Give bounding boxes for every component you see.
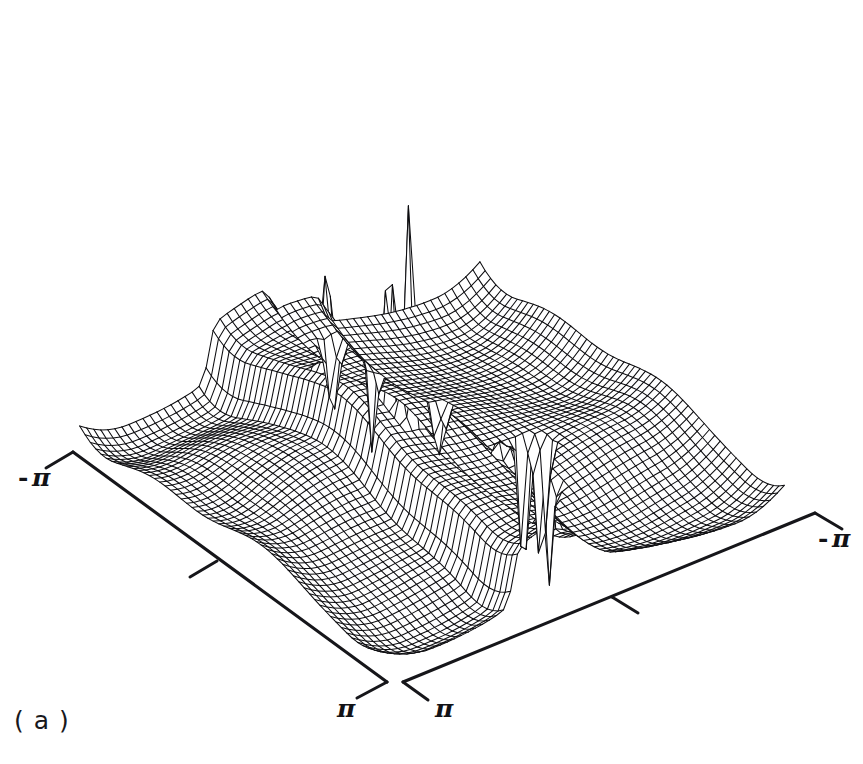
left-axis-end-tick [357, 682, 387, 698]
mesh-surface [80, 206, 785, 654]
right-axis-start-tick [403, 682, 428, 700]
right-axis-mid-tick [612, 597, 638, 613]
left-axis-mid-tick [190, 561, 217, 577]
figure-panel: -π π π -π ( a ) [0, 0, 863, 764]
pi-symbol: π [32, 463, 51, 492]
surface-plot-svg [0, 0, 863, 764]
axis-label-right-max: -π [818, 524, 851, 553]
axis-label-left-max: π [334, 694, 356, 723]
minus-sign: - [818, 524, 832, 553]
pi-symbol: π [832, 524, 851, 553]
axis-label-left-min: -π [18, 463, 51, 492]
pi-symbol: π [337, 694, 356, 723]
figure-caption: ( a ) [14, 706, 70, 735]
minus-sign: - [18, 463, 32, 492]
pi-symbol: π [435, 694, 454, 723]
axis-label-right-min: π [432, 694, 454, 723]
